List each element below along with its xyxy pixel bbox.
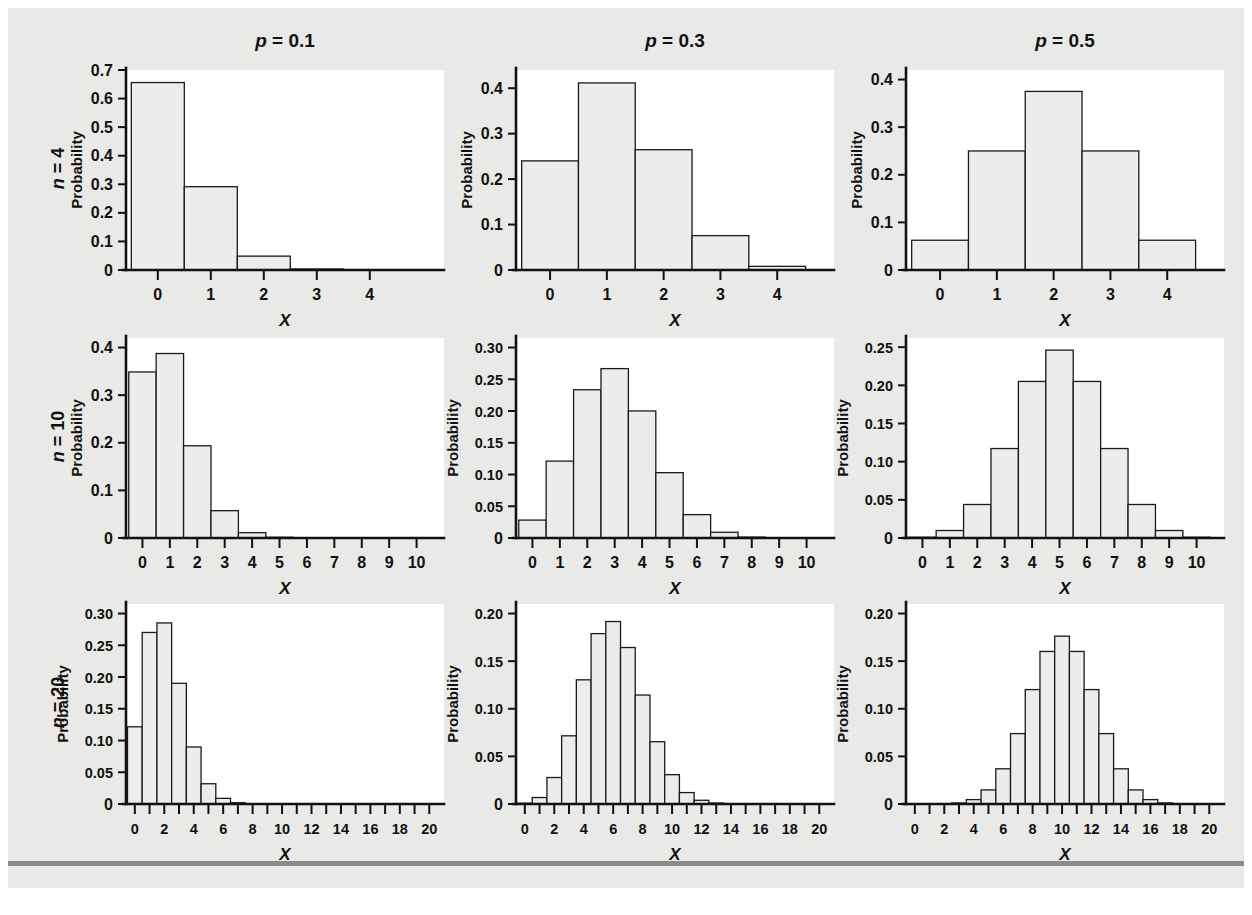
y-ticks: 00.10.20.30.4 (871, 71, 906, 278)
y-axis-title: Probability (834, 665, 851, 743)
bar (546, 461, 573, 538)
x-tick-label: 10 (274, 821, 290, 837)
column-title-2: p = 0.3 (456, 30, 894, 52)
bar (237, 256, 290, 270)
x-ticks: 012345678910 (528, 539, 816, 571)
y-tick-label: 0.20 (865, 378, 893, 394)
column-title-value: = 0.5 (1047, 30, 1095, 51)
y-tick-label: 0 (884, 262, 893, 279)
y-ticks: 00.050.100.150.20 (475, 606, 516, 812)
bar (912, 240, 969, 270)
x-axis-title: X (278, 579, 292, 598)
x-tick-label: 9 (385, 554, 394, 571)
x-tick-label: 10 (664, 821, 680, 837)
y-tick-label: 0.3 (91, 387, 113, 404)
y-tick-label: 0.4 (91, 147, 113, 164)
x-tick-label: 2 (550, 821, 558, 837)
x-tick-label: 12 (693, 821, 709, 837)
x-tick-label: 0 (911, 821, 919, 837)
x-tick-label: 1 (992, 286, 1001, 303)
y-axis-title: Probability (444, 665, 461, 743)
bar (1114, 769, 1129, 804)
x-tick-label: 0 (138, 554, 147, 571)
bar (142, 632, 157, 804)
footer-rule (8, 861, 1244, 866)
x-tick-label: 2 (193, 554, 202, 571)
y-tick-label: 0.20 (85, 670, 113, 686)
x-tick-label: 3 (220, 554, 229, 571)
x-tick-label: 4 (248, 554, 257, 571)
y-tick-label: 0.2 (871, 166, 893, 183)
x-tick-label: 10 (1188, 554, 1206, 571)
y-tick-label: 0 (884, 796, 893, 813)
y-axis-title: Probability (444, 399, 461, 477)
bar (519, 520, 546, 538)
chart-panel-n10-p01: 00.10.20.30.4012345678910XProbability (54, 332, 454, 600)
y-ticks: 00.10.20.30.40.50.60.7 (91, 64, 126, 279)
bar (522, 161, 579, 270)
chart-panel-n20-p01: 00.050.100.150.200.250.30024681012141618… (54, 598, 454, 866)
x-tick-label: 5 (1055, 554, 1064, 571)
x-tick-label: 0 (918, 554, 927, 571)
x-tick-label: 3 (1106, 286, 1115, 303)
x-tick-label: 8 (747, 554, 756, 571)
y-tick-label: 0.1 (91, 233, 113, 250)
chart-panel-n10-p05: 00.050.100.150.200.25012345678910XProbab… (834, 332, 1234, 600)
x-tick-label: 6 (609, 821, 617, 837)
column-title-symbol: p (255, 30, 267, 51)
bar (601, 369, 628, 538)
x-tick-label: 8 (639, 821, 647, 837)
y-ticks: 00.10.20.30.4 (91, 339, 126, 546)
bar (576, 680, 591, 804)
bar (650, 742, 665, 804)
x-tick-label: 8 (1137, 554, 1146, 571)
bar (1128, 790, 1143, 804)
x-axis-title: X (278, 311, 292, 330)
x-tick-label: 8 (249, 821, 257, 837)
bar (679, 793, 694, 804)
x-tick-label: 4 (190, 821, 198, 837)
bar (1040, 651, 1055, 804)
y-tick-label: 0.20 (475, 606, 503, 622)
x-tick-label: 4 (638, 554, 647, 571)
y-tick-label: 0.3 (871, 119, 893, 136)
bar (692, 236, 749, 270)
x-tick-label: 10 (798, 554, 816, 571)
y-tick-label: 0.15 (865, 654, 893, 670)
x-tick-label: 18 (782, 821, 798, 837)
bar (665, 775, 680, 804)
x-ticks: 01234 (546, 271, 782, 303)
bar (574, 390, 601, 538)
x-ticks: 02468101214161820 (911, 805, 1218, 837)
column-title-symbol: p (1035, 30, 1047, 51)
x-tick-label: 5 (275, 554, 284, 571)
y-tick-label: 0.05 (865, 492, 893, 508)
bar (1025, 690, 1040, 804)
y-tick-label: 0.30 (85, 606, 113, 622)
bar (628, 411, 655, 538)
x-axis-title: X (668, 579, 682, 598)
x-tick-label: 10 (1054, 821, 1070, 837)
x-tick-label: 1 (945, 554, 954, 571)
x-tick-label: 0 (528, 554, 537, 571)
bar (981, 790, 996, 804)
x-ticks: 01234 (936, 271, 1172, 303)
x-tick-label: 4 (970, 821, 978, 837)
bar (591, 634, 606, 804)
bar (1139, 240, 1196, 270)
x-tick-label: 4 (1163, 286, 1172, 303)
y-tick-label: 0.10 (475, 701, 503, 717)
x-tick-label: 2 (973, 554, 982, 571)
y-ticks: 00.050.100.150.200.250.30 (85, 606, 126, 812)
column-title-value: = 0.1 (267, 30, 315, 51)
y-tick-label: 0.2 (91, 434, 113, 451)
y-tick-label: 0 (494, 530, 503, 547)
x-tick-label: 1 (555, 554, 564, 571)
bar (656, 473, 683, 538)
x-tick-label: 0 (153, 286, 162, 303)
bar (547, 778, 562, 804)
bar (172, 683, 187, 804)
y-tick-label: 0.15 (475, 435, 503, 451)
x-tick-label: 6 (219, 821, 227, 837)
chart-panel-n4-p03: 00.10.20.30.401234XProbability (444, 64, 844, 332)
